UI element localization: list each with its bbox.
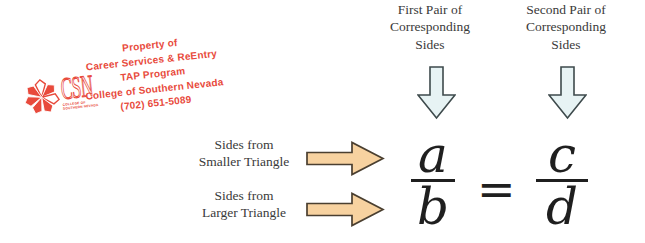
fraction-left-denominator: b: [407, 185, 459, 229]
label-sides-smaller-triangle: Sides from Smaller Triangle: [169, 137, 319, 170]
label-sides-larger-triangle: Sides from Larger Triangle: [169, 188, 319, 221]
right-arrow-shape: [307, 194, 383, 226]
down-arrow-shape: [549, 67, 586, 118]
fraction-right-numerator: c: [533, 133, 591, 177]
equals-sign: =: [477, 164, 513, 214]
right-arrow-icon-smaller: [306, 141, 385, 176]
fraction-right-denominator: d: [533, 185, 591, 229]
fraction-left-numerator: a: [407, 133, 459, 177]
scanned-handout-page: CSN COLLEGE OF SOUTHERN NEVADA Property …: [0, 0, 645, 243]
right-arrow-shape: [307, 143, 383, 175]
fraction-right: c d: [533, 133, 591, 229]
fraction-left: a b: [407, 133, 459, 229]
right-arrow-icon-larger: [306, 192, 385, 227]
down-arrow-icon-first-pair: [417, 66, 456, 120]
down-arrow-icon-second-pair: [548, 66, 587, 120]
stamp-text: Property of Career Services & ReEntry TA…: [43, 28, 263, 123]
header-second-pair: Second Pair of Corresponding Sides: [491, 1, 641, 53]
header-first-pair: First Pair of Corresponding Sides: [355, 1, 505, 53]
down-arrow-shape: [418, 67, 455, 118]
property-stamp: CSN COLLEGE OF SOUTHERN NEVADA Property …: [14, 16, 302, 135]
